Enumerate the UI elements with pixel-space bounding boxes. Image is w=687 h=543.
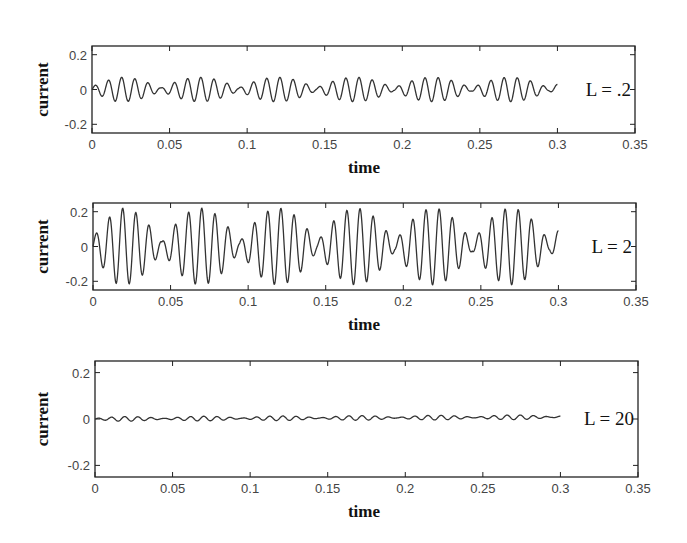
current-waveform bbox=[93, 208, 558, 284]
x-tick-label: 0.3 bbox=[548, 137, 566, 152]
y-tick-label: 0 bbox=[80, 83, 87, 98]
x-tick-label: 0.05 bbox=[160, 481, 185, 496]
x-tick-label: 0.35 bbox=[623, 294, 648, 309]
x-tick-label: 0.3 bbox=[549, 294, 567, 309]
x-tick-label: 0.05 bbox=[158, 294, 183, 309]
y-tick-label: -0.2 bbox=[66, 274, 88, 289]
x-tick-label: 0 bbox=[88, 137, 95, 152]
y-axis-label: current bbox=[33, 62, 52, 117]
x-tick-label: 0.15 bbox=[315, 481, 340, 496]
l-value-annotation: L = 20 bbox=[584, 408, 634, 429]
x-tick-label: 0.1 bbox=[241, 481, 259, 496]
panel-2: 00.050.10.150.20.250.30.350.20-0.2L = 2t… bbox=[33, 203, 649, 334]
y-axis-label: current bbox=[33, 219, 52, 274]
x-tick-label: 0.35 bbox=[625, 481, 650, 496]
x-tick-label: 0.25 bbox=[467, 137, 492, 152]
current-waveform bbox=[92, 77, 557, 101]
y-tick-label: 0 bbox=[81, 240, 88, 255]
x-tick-label: 0.25 bbox=[468, 294, 493, 309]
x-tick-label: 0.25 bbox=[470, 481, 495, 496]
x-tick-label: 0 bbox=[89, 294, 96, 309]
x-axis-label: time bbox=[348, 158, 381, 177]
y-tick-label: -0.2 bbox=[65, 117, 87, 132]
figure: 00.050.10.150.20.250.30.350.20-0.2L = .2… bbox=[0, 0, 687, 543]
x-tick-label: 0.35 bbox=[622, 137, 647, 152]
current-waveform bbox=[95, 415, 560, 421]
y-tick-label: 0.2 bbox=[69, 48, 87, 63]
y-tick-label: 0.2 bbox=[70, 205, 88, 220]
x-tick-label: 0.3 bbox=[551, 481, 569, 496]
y-tick-label: 0.2 bbox=[72, 366, 90, 381]
y-tick-label: 0 bbox=[83, 412, 90, 427]
x-tick-label: 0 bbox=[91, 481, 98, 496]
x-tick-label: 0.1 bbox=[239, 294, 257, 309]
l-value-annotation: L = 2 bbox=[591, 236, 632, 257]
panel-1: 00.050.10.150.20.250.30.350.20-0.2L = .2… bbox=[33, 46, 648, 177]
x-tick-label: 0.2 bbox=[393, 137, 411, 152]
x-tick-label: 0.15 bbox=[313, 294, 338, 309]
x-tick-label: 0.1 bbox=[238, 137, 256, 152]
y-tick-label: -0.2 bbox=[68, 458, 90, 473]
x-tick-label: 0.15 bbox=[312, 137, 337, 152]
y-axis-label: current bbox=[33, 391, 52, 446]
x-tick-label: 0.2 bbox=[396, 481, 414, 496]
x-tick-label: 0.2 bbox=[394, 294, 412, 309]
x-axis-label: time bbox=[348, 315, 381, 334]
panel-3: 00.050.10.150.20.250.30.350.20-0.2L = 20… bbox=[33, 361, 651, 521]
l-value-annotation: L = .2 bbox=[586, 79, 631, 100]
x-axis-label: time bbox=[348, 502, 381, 521]
x-tick-label: 0.05 bbox=[157, 137, 182, 152]
